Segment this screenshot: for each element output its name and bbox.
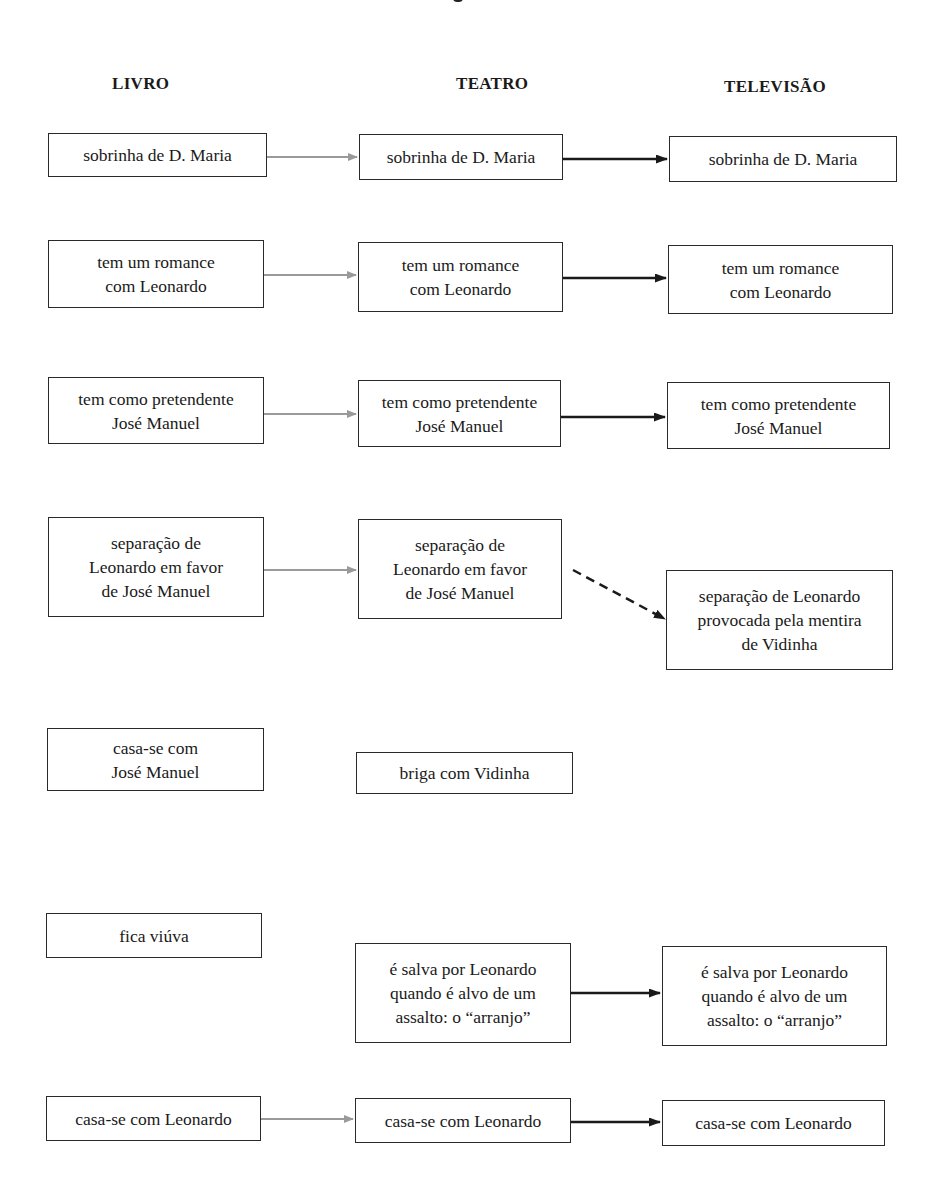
livro-box-row7: casa-se com Leonardo [46,1096,261,1141]
arrow-teatro-tv-row4-dashed [573,570,665,619]
livro-box-row4: separação de Leonardo em favor de José M… [48,517,264,617]
televisao-box-row2: tem um romance com Leonardo [668,245,893,314]
televisao-box-row4: separação de Leonardo provocada pela men… [666,570,893,670]
livro-box-row1: sobrinha de D. Maria [48,133,267,177]
teatro-box-row1: sobrinha de D. Maria [359,134,563,180]
livro-box-row6: fica viúva [46,913,262,958]
teatro-box-row7: casa-se com Leonardo [355,1098,571,1143]
televisao-box-row1: sobrinha de D. Maria [669,136,897,182]
livro-box-row2: tem um romance com Leonardo [48,240,264,308]
televisao-box-row6: é salva por Leonardo quando é alvo de um… [662,946,887,1046]
livro-box-row3: tem como pretendente José Manuel [48,377,264,444]
livro-box-row5: casa-se com José Manuel [47,728,264,791]
teatro-box-row4: separação de Leonardo em favor de José M… [358,519,562,619]
teatro-box-row3: tem como pretendente José Manuel [358,380,561,447]
teatro-box-row5: briga com Vidinha [356,752,573,794]
televisao-box-row7: casa-se com Leonardo [662,1100,885,1146]
teatro-box-row2: tem um romance com Leonardo [358,242,563,312]
televisao-box-row3: tem como pretendente José Manuel [667,382,890,449]
teatro-box-row6: é salva por Leonardo quando é alvo de um… [355,943,571,1043]
